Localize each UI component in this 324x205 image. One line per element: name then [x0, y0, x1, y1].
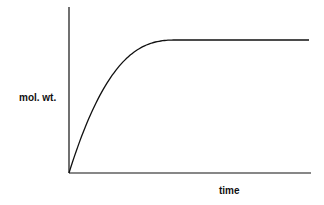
y-axis-label: mol. wt.: [19, 92, 56, 103]
chart: mol. wt. time: [0, 0, 324, 205]
data-curve: [69, 40, 309, 173]
x-axis-label: time: [219, 185, 240, 196]
